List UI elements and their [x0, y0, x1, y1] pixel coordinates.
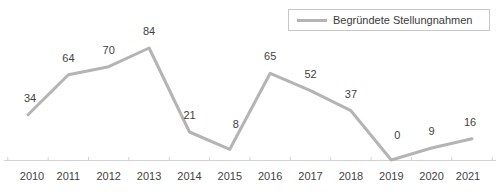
data-value-label: 84	[143, 26, 155, 37]
data-value-label: 0	[394, 130, 400, 141]
x-axis-tick-label: 2012	[96, 171, 120, 182]
x-axis-tick-label: 2016	[258, 171, 282, 182]
chart-legend: Begründete Stellungnahmen	[288, 9, 490, 31]
data-value-label: 9	[429, 126, 435, 137]
data-value-label: 52	[304, 69, 316, 80]
data-value-label: 21	[183, 110, 195, 121]
x-axis-tick-label: 2011	[57, 171, 81, 182]
x-axis-tick-label: 2015	[218, 171, 242, 182]
data-value-label: 34	[24, 93, 36, 104]
legend-line-swatch-icon	[297, 19, 327, 22]
data-value-label: 16	[464, 117, 476, 128]
x-axis-tick-label: 2013	[137, 171, 161, 182]
data-value-label: 65	[264, 51, 276, 62]
x-axis-tick-label: 2017	[298, 171, 322, 182]
x-axis-tick-label: 2019	[379, 171, 403, 182]
line-chart: 346470842186552370916 201020112012201320…	[0, 0, 500, 194]
x-axis-tick-label: 2010	[20, 171, 44, 182]
x-axis	[4, 157, 496, 161]
x-axis-tick-label: 2018	[339, 171, 363, 182]
x-axis-tick-label: 2014	[177, 171, 201, 182]
x-axis-tick-label: 2020	[419, 171, 443, 182]
x-axis-tick-label: 2021	[456, 171, 480, 182]
data-value-label: 64	[62, 53, 74, 64]
series-line-begruendete-stellungnahmen	[28, 48, 472, 160]
data-value-label: 70	[103, 45, 115, 56]
data-value-label: 37	[345, 89, 357, 100]
data-value-label: 8	[233, 119, 239, 130]
legend-label: Begründete Stellungnahmen	[333, 15, 472, 26]
